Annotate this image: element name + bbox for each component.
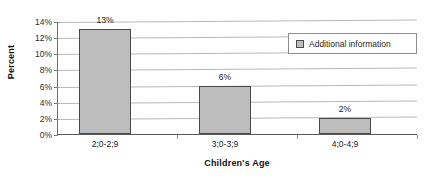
y-tick-label: 12%: [35, 33, 52, 43]
y-tick-label: 4%: [40, 98, 52, 108]
y-tick-label: 6%: [40, 82, 52, 92]
bar-value-label: 6%: [219, 72, 231, 82]
x-tick-mark: [417, 135, 418, 139]
y-tick-label: 10%: [35, 49, 52, 59]
y-tick-mark: [54, 22, 58, 23]
chart-legend: Additional information: [288, 33, 417, 54]
x-category-label: 2;0-2;9: [92, 139, 118, 149]
bar-chart: Percent 0%2%4%6%8%10%12%14% 13%6%2% 2;0-…: [0, 0, 439, 180]
y-tick-label: 14%: [35, 17, 52, 27]
y-tick-mark: [54, 70, 58, 71]
x-tick-mark: [177, 135, 178, 139]
x-category-label: 3;0-3;9: [212, 139, 238, 149]
y-tick-label: 2%: [40, 114, 52, 124]
y-tick-mark: [54, 135, 58, 136]
legend-entry-label: Additional information: [309, 39, 391, 49]
bar-value-label: 13%: [96, 15, 113, 25]
y-tick-mark: [54, 38, 58, 39]
bar: [199, 86, 251, 134]
y-tick-label: 8%: [40, 65, 52, 75]
bar-value-label: 2%: [339, 104, 351, 114]
x-tick-mark: [297, 135, 298, 139]
x-axis-line: [57, 134, 417, 135]
y-axis-title: Percent: [6, 27, 16, 97]
x-category-label: 4;0-4;9: [332, 139, 358, 149]
y-tick-mark: [54, 87, 58, 88]
y-tick-label: 0%: [40, 130, 52, 140]
bar: [319, 118, 371, 134]
bar: [79, 29, 131, 134]
legend-swatch-icon: [296, 40, 304, 48]
y-tick-mark: [54, 119, 58, 120]
y-tick-mark: [54, 54, 58, 55]
x-axis-title: Children's Age: [57, 158, 417, 168]
y-tick-mark: [54, 103, 58, 104]
